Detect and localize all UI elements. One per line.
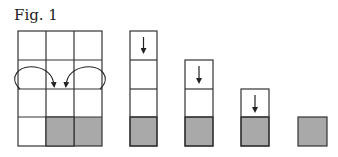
- curved-arrows: [15, 67, 106, 89]
- stack-4: [298, 117, 327, 146]
- stack-3: [241, 89, 269, 146]
- stack-1: [130, 31, 157, 146]
- stack-2: [185, 60, 213, 146]
- shaded-cell: [74, 117, 102, 146]
- shaded-cell: [46, 117, 74, 146]
- curved-arrow-right-icon: [66, 67, 105, 89]
- figure-diagram: [0, 0, 338, 157]
- curved-arrow-left-icon: [15, 67, 54, 89]
